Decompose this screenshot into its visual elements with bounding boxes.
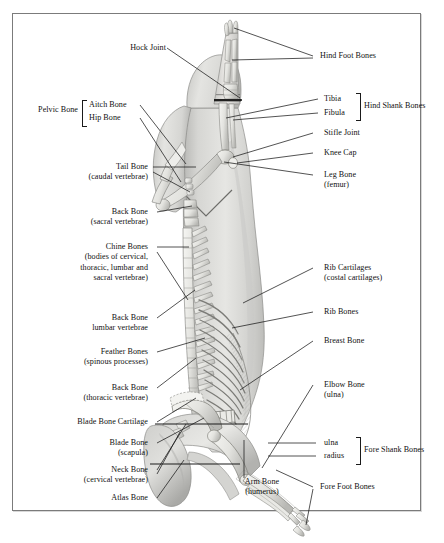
label-pelvic-bone: Pelvic Bone bbox=[14, 105, 78, 115]
label-feather-bones-line1: Feather Bones bbox=[38, 347, 148, 357]
label-feather-bones-line2: (spinous processes) bbox=[38, 357, 148, 367]
label-aitch-bone-line1: Aitch Bone bbox=[89, 100, 163, 110]
label-rib-bones: Rib Bones bbox=[324, 307, 424, 317]
label-hind-foot-bones: Hind Foot Bones bbox=[320, 51, 436, 61]
diagram-page: Hock Joint Pelvic Bone Aitch Bone Hip Bo… bbox=[0, 0, 444, 543]
label-fore-shank-bones-line1: Fore Shank Bones bbox=[364, 445, 444, 455]
label-hip-bone-line1: Hip Bone bbox=[89, 113, 163, 123]
label-leg-bone-line2: (femur) bbox=[324, 180, 424, 190]
label-back-bone-sacral: Back Bone (sacral vertebrae) bbox=[44, 207, 148, 228]
label-radius-line1: radius bbox=[324, 451, 360, 461]
label-neck-bone: Neck Bone (cervical vertebrae) bbox=[38, 465, 148, 486]
label-back-bone-lumbar-line2: lumbar vertebrae bbox=[40, 323, 148, 333]
label-hip-bone: Hip Bone bbox=[89, 113, 163, 123]
label-leg-bone: Leg Bone (femur) bbox=[324, 170, 424, 191]
pelvic-bone-bracket bbox=[82, 100, 87, 127]
label-knee-cap-line1: Knee Cap bbox=[324, 148, 424, 158]
label-ulna: ulna bbox=[324, 438, 360, 448]
label-blade-bone: Blade Bone (scapula) bbox=[44, 438, 148, 459]
label-tibia: Tibia bbox=[324, 94, 358, 104]
label-chine-bones: Chine Bones (bodies of cervical, thoraci… bbox=[34, 242, 148, 284]
fore-shank-bracket bbox=[356, 437, 361, 465]
label-fore-foot-bones: Fore Foot Bones bbox=[320, 482, 430, 492]
label-tail-bone-line2: (caudal vertebrae) bbox=[44, 172, 148, 182]
label-blade-bone-cartilage: Blade Bone Cartilage bbox=[26, 417, 148, 427]
label-back-bone-lumbar-line1: Back Bone bbox=[40, 313, 148, 323]
label-stifle-joint-line1: Stifle Joint bbox=[324, 128, 424, 138]
label-breast-bone-line1: Breast Bone bbox=[324, 336, 424, 346]
label-back-bone-sacral-line2: (sacral vertebrae) bbox=[44, 217, 148, 227]
label-elbow-bone-line1: Elbow Bone bbox=[324, 380, 424, 390]
label-rib-cartilages-line1: Rib Cartilages bbox=[324, 263, 440, 273]
label-neck-bone-line2: (cervical vertebrae) bbox=[38, 475, 148, 485]
label-chine-bones-line2: (bodies of cervical, bbox=[34, 252, 148, 262]
label-fibula: Fibula bbox=[324, 108, 358, 118]
label-tail-bone: Tail Bone (caudal vertebrae) bbox=[44, 162, 148, 183]
label-stifle-joint: Stifle Joint bbox=[324, 128, 424, 138]
label-hind-foot-bones-line1: Hind Foot Bones bbox=[320, 51, 436, 61]
label-atlas-bone: Atlas Bone bbox=[44, 493, 148, 503]
label-breast-bone: Breast Bone bbox=[324, 336, 424, 346]
label-tibia-line1: Tibia bbox=[324, 94, 358, 104]
hind-shank-bracket bbox=[356, 93, 361, 121]
label-hind-shank-bones: Hind Shank Bones bbox=[364, 101, 442, 111]
label-blade-bone-cartilage-line1: Blade Bone Cartilage bbox=[26, 417, 148, 427]
label-rib-cartilages-line2: (costal cartilages) bbox=[324, 273, 440, 283]
label-leg-bone-line1: Leg Bone bbox=[324, 170, 424, 180]
label-fore-shank-bones: Fore Shank Bones bbox=[364, 445, 444, 455]
label-back-bone-thoracic-line1: Back Bone bbox=[38, 383, 148, 393]
label-knee-cap: Knee Cap bbox=[324, 148, 424, 158]
label-hock-joint: Hock Joint bbox=[62, 43, 166, 53]
label-tail-bone-line1: Tail Bone bbox=[44, 162, 148, 172]
label-aitch-bone: Aitch Bone bbox=[89, 100, 163, 110]
label-back-bone-thoracic-line2: (thoracic vertebrae) bbox=[38, 393, 148, 403]
label-back-bone-thoracic: Back Bone (thoracic vertebrae) bbox=[38, 383, 148, 404]
label-chine-bones-line4: sacral vertebrae) bbox=[34, 273, 148, 283]
label-atlas-bone-line1: Atlas Bone bbox=[44, 493, 148, 503]
label-layer: Hock Joint Pelvic Bone Aitch Bone Hip Bo… bbox=[0, 0, 444, 543]
label-chine-bones-line3: thoracic, lumbar and bbox=[34, 263, 148, 273]
label-arm-bone-line1: Arm Bone bbox=[226, 477, 298, 487]
label-arm-bone: Arm Bone (humerus) bbox=[226, 477, 298, 498]
label-blade-bone-line2: (scapula) bbox=[44, 448, 148, 458]
label-back-bone-lumbar: Back Bone lumbar vertebrae bbox=[40, 313, 148, 334]
label-ulna-line1: ulna bbox=[324, 438, 360, 448]
label-feather-bones: Feather Bones (spinous processes) bbox=[38, 347, 148, 368]
label-back-bone-sacral-line1: Back Bone bbox=[44, 207, 148, 217]
label-blade-bone-line1: Blade Bone bbox=[44, 438, 148, 448]
label-radius: radius bbox=[324, 451, 360, 461]
label-rib-bones-line1: Rib Bones bbox=[324, 307, 424, 317]
label-arm-bone-line2: (humerus) bbox=[226, 487, 298, 497]
label-rib-cartilages: Rib Cartilages (costal cartilages) bbox=[324, 263, 440, 284]
label-fore-foot-bones-line1: Fore Foot Bones bbox=[320, 482, 430, 492]
label-elbow-bone-line2: (ulna) bbox=[324, 390, 424, 400]
label-elbow-bone: Elbow Bone (ulna) bbox=[324, 380, 424, 401]
label-fibula-line1: Fibula bbox=[324, 108, 358, 118]
label-neck-bone-line1: Neck Bone bbox=[38, 465, 148, 475]
label-chine-bones-line1: Chine Bones bbox=[34, 242, 148, 252]
label-pelvic-bone-line1: Pelvic Bone bbox=[14, 105, 78, 115]
label-hind-shank-bones-line1: Hind Shank Bones bbox=[364, 101, 442, 111]
label-hock-joint-line1: Hock Joint bbox=[62, 43, 166, 53]
